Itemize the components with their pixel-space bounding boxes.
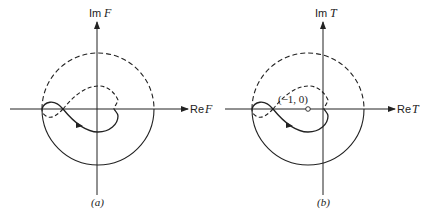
contour-solid: [42, 102, 118, 132]
panel-caption-b: (b): [317, 196, 330, 209]
imag-axis-prefix: Im: [89, 7, 101, 19]
real-axis-var: F: [204, 102, 213, 116]
panel-a: Im F Re F (a): [10, 6, 213, 209]
imag-axis-prefix: Im: [315, 7, 327, 19]
real-axis-var: T: [412, 102, 420, 116]
contour-dashed: [42, 86, 118, 117]
nyquist-figure: Im F Re F (a) (−1, 0) Im T Re T (b): [0, 0, 425, 221]
unit-circle-lower-solid: [252, 109, 364, 165]
critical-point-label: (−1, 0): [278, 93, 308, 106]
real-axis-prefix: Re: [397, 103, 411, 115]
real-axis-prefix: Re: [190, 103, 204, 115]
critical-point-marker: [306, 107, 311, 112]
unit-circle-lower-solid: [42, 109, 154, 165]
panel-b: (−1, 0) Im T Re T (b): [225, 6, 420, 209]
unit-circle-upper-dashed: [42, 53, 154, 109]
imag-axis-var: T: [330, 6, 338, 20]
panel-caption-a: (a): [91, 196, 104, 209]
imag-axis-var: F: [103, 6, 112, 20]
contour-solid: [252, 102, 328, 132]
